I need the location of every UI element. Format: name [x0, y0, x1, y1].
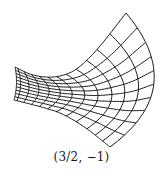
grid-radial-line: [14, 100, 110, 147]
grid-radial-line: [15, 97, 125, 135]
grid-radial-line: [15, 13, 126, 77]
figure-caption: (3/2, −1): [0, 150, 163, 164]
grid-arc-line: [14, 67, 17, 100]
conformal-grid-figure: (3/2, −1): [0, 0, 163, 178]
grid-radial-line: [16, 57, 151, 87]
grid-arc-line: [95, 50, 125, 135]
